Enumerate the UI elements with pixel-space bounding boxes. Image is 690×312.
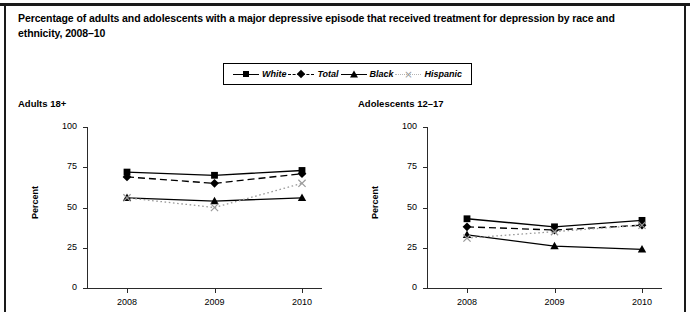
series-white — [124, 167, 306, 179]
square-marker-icon — [243, 71, 249, 77]
legend-label-white: White — [262, 69, 287, 79]
diamond-marker-icon — [297, 70, 305, 78]
legend-label-black: Black — [370, 69, 394, 79]
diamond-marker-icon — [210, 179, 219, 188]
panel-adults: Adults 18+ 1007550250Percent200820092010 — [12, 98, 342, 312]
panel-adolescents: Adolescents 12–17 1007550250Percent20082… — [352, 98, 682, 312]
figure-left-rule — [4, 6, 6, 312]
chart-legend: White Total Black × Hispanic — [223, 63, 472, 85]
legend-swatch-white — [233, 69, 259, 80]
triangle-marker-icon — [350, 71, 358, 78]
plot-area-adolescents: 1007550250Percent200820092010 — [352, 98, 682, 312]
cross-marker-icon: × — [404, 70, 413, 79]
diamond-marker-icon — [463, 222, 472, 231]
legend-label-total: Total — [317, 69, 338, 79]
legend-swatch-black — [341, 69, 367, 80]
legend-item-white: White — [233, 69, 287, 80]
legend-swatch-total — [288, 69, 314, 80]
legend-item-total: Total — [288, 69, 338, 80]
legend-swatch-hispanic: × — [395, 69, 421, 80]
legend-label-hispanic: Hispanic — [424, 69, 462, 79]
legend-item-black: Black — [341, 69, 394, 80]
square-marker-icon — [464, 215, 471, 222]
figure-container: Percentage of adults and adolescents wit… — [0, 0, 690, 312]
cross-marker-icon — [298, 180, 305, 187]
legend-item-hispanic: × Hispanic — [395, 69, 462, 80]
figure-top-rule — [0, 3, 690, 6]
series-layer — [12, 98, 342, 312]
series-black — [123, 194, 306, 205]
square-marker-icon — [211, 172, 218, 179]
series-layer — [352, 98, 682, 312]
figure-title: Percentage of adults and adolescents wit… — [18, 11, 658, 41]
plot-area-adults: 1007550250Percent200820092010 — [12, 98, 342, 312]
figure-right-rule — [684, 6, 686, 312]
